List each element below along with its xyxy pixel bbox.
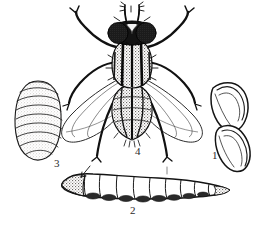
figure-label-3: 3	[54, 158, 60, 169]
thorax-stripe	[122, 42, 123, 86]
figure-label-2: 2	[130, 205, 136, 216]
pupa-stage-3	[15, 81, 62, 160]
pupa-body-outline	[15, 81, 61, 160]
fly-compound-eye-left	[108, 23, 128, 44]
figure-caption	[0, 217, 261, 225]
fly-compound-eye-right	[136, 23, 156, 44]
figure-label-1: 1	[212, 150, 218, 161]
thorax-stripe	[141, 42, 142, 86]
fly-life-cycle-figure: 1 2 3 4	[0, 0, 261, 225]
figure-label-4: 4	[135, 146, 141, 157]
illustration-canvas	[0, 0, 261, 225]
thorax-stripe	[114, 52, 115, 80]
thorax-stripe	[149, 52, 150, 80]
